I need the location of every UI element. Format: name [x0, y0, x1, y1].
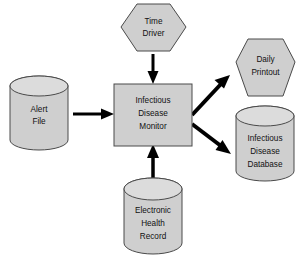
time-driver-hexagon-shape: [121, 4, 186, 51]
node-infectious-disease-monitor[interactable]: Infectious Disease Monitor: [114, 84, 192, 146]
database-label-line2: Disease: [250, 147, 280, 156]
flow-diagram: Time Driver Alert File Infectious Diseas…: [0, 0, 300, 259]
ehr-cylinder-top: [124, 178, 182, 200]
node-alert-file[interactable]: Alert File: [10, 76, 68, 150]
edge-alert-file-to-monitor: [73, 109, 114, 120]
monitor-label-line3: Monitor: [139, 122, 167, 131]
database-cylinder-top: [236, 106, 294, 126]
node-time-driver[interactable]: Time Driver: [121, 4, 186, 51]
edge-monitor-to-daily-printout: [192, 75, 230, 115]
time-driver-label-line1: Time: [145, 17, 163, 26]
alert-file-label-line1: Alert: [31, 105, 49, 114]
ehr-label-line3: Record: [140, 232, 167, 241]
database-label-line1: Infectious: [247, 134, 282, 143]
daily-printout-label-line1: Daily: [256, 55, 275, 64]
time-driver-label-line2: Driver: [143, 29, 165, 38]
diagram-canvas: Time Driver Alert File Infectious Diseas…: [0, 0, 300, 259]
database-label-line3: Database: [247, 160, 282, 169]
edge-monitor-to-database: [192, 124, 231, 154]
node-infectious-disease-database[interactable]: Infectious Disease Database: [236, 106, 294, 181]
monitor-label-line1: Infectious: [135, 96, 170, 105]
ehr-label-line1: Electronic: [135, 206, 171, 215]
node-daily-printout[interactable]: Daily Printout: [236, 39, 295, 96]
daily-printout-label-line2: Printout: [251, 68, 280, 77]
edge-ehr-to-monitor: [147, 144, 159, 178]
monitor-label-line2: Disease: [138, 109, 168, 118]
node-electronic-health-record[interactable]: Electronic Health Record: [124, 178, 182, 254]
alert-file-label-line2: File: [32, 117, 46, 126]
edge-time-driver-to-monitor: [148, 54, 159, 84]
alert-file-cylinder-top: [10, 76, 68, 96]
ehr-label-line2: Health: [141, 219, 165, 228]
